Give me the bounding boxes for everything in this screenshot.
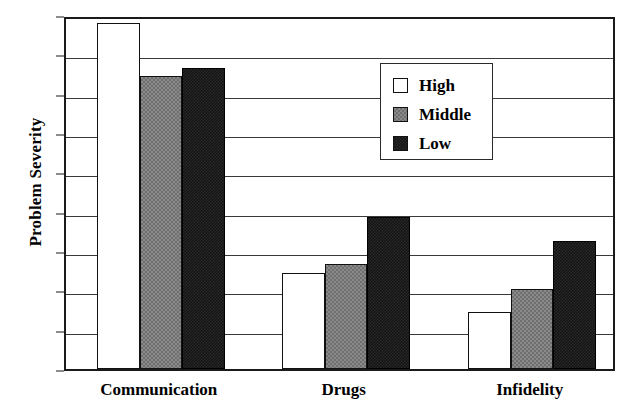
y-tick-mark-30 (56, 135, 64, 136)
legend-swatch-middle-icon (393, 107, 408, 122)
bar-drugs-low (367, 217, 410, 369)
bar-infidelity-low (553, 241, 596, 369)
legend-item-high[interactable]: High (393, 71, 492, 100)
legend-label-middle: Middle (419, 106, 471, 123)
y-axis-title: Problem Severity (26, 82, 46, 282)
bar-infidelity-high (468, 312, 511, 369)
bar-drugs-high (282, 273, 325, 369)
legend-item-low[interactable]: Low (393, 129, 492, 158)
legend-label-high: High (419, 77, 455, 94)
bar-infidelity-middle (511, 289, 554, 369)
legend-swatch-high-icon (393, 78, 408, 93)
bar-drugs-middle (325, 264, 368, 369)
gridline-40 (66, 58, 613, 59)
legend-label-low: Low (419, 135, 451, 152)
y-tick-mark-25 (56, 174, 64, 175)
legend-swatch-low-icon (393, 136, 408, 151)
y-tick-mark-5 (56, 331, 64, 332)
bar-chart-figure: Problem Severity 051015202530354045 Comm… (0, 0, 627, 416)
y-tick-mark-20 (56, 213, 64, 214)
plot-area (64, 17, 615, 371)
bar-communication-middle (140, 76, 183, 369)
y-tick-mark-15 (56, 253, 64, 254)
y-tick-mark-35 (56, 95, 64, 96)
bar-communication-high (97, 23, 140, 369)
legend[interactable]: HighMiddleLow (380, 63, 493, 160)
y-tick-mark-0 (56, 371, 64, 372)
y-tick-mark-40 (56, 56, 64, 57)
legend-item-middle[interactable]: Middle (393, 100, 492, 129)
x-label-infidelity: Infidelity (406, 380, 627, 406)
y-tick-mark-10 (56, 292, 64, 293)
y-tick-mark-45 (56, 17, 64, 18)
bar-communication-low (182, 68, 225, 369)
